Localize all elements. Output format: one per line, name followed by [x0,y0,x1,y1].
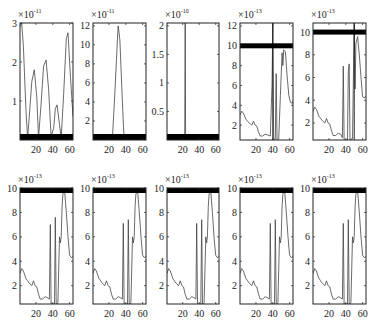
x-tick-label: 60 [211,308,221,319]
threshold-bar [93,134,146,140]
x-tick-label: 60 [65,144,75,155]
subplot-7: 204060246810×10-13 [80,173,148,319]
y-tick-label: 8 [12,207,17,218]
y-tick-label: 2 [232,120,237,131]
y-tick-label: 2 [159,20,164,31]
y-tick-label: 12 [80,20,90,31]
exponent-label: ×10-13 [311,173,335,185]
figure: 204060123×10-1120406024681012×10-1120406… [0,0,376,336]
axes-box [93,188,146,304]
data-line [93,190,146,304]
threshold-bar [93,188,146,193]
y-tick-label: 6 [85,77,90,88]
axes-box [240,23,293,140]
y-tick-label: 1 [159,77,164,88]
subplot-8: 204060246810×10-13 [154,173,221,319]
subplot-6: 204060246810×10-13 [7,173,75,319]
subplot-10: 204060246810×10-13 [300,173,368,319]
y-tick-label: 1 [12,96,17,107]
x-tick-label: 20 [104,144,114,155]
y-tick-label: 2 [305,117,310,128]
x-tick-label: 60 [211,144,221,155]
x-tick-label: 20 [178,308,188,319]
exponent-label: ×10-10 [165,8,189,20]
data-line [93,26,146,140]
exponent-label: ×10-13 [238,173,262,185]
exponent-label: ×10-13 [238,8,262,20]
y-tick-label: 10 [80,39,90,50]
y-tick-label: 2 [85,115,90,126]
axes-box [167,23,219,140]
y-tick-label: 4 [305,256,310,267]
x-tick-label: 40 [194,144,204,155]
y-tick-label: 2 [159,280,164,291]
data-line [167,190,219,304]
data-line [20,23,73,138]
y-tick-label: 8 [305,49,310,60]
x-tick-label: 60 [285,308,295,319]
y-tick-label: 6 [232,231,237,242]
threshold-bar [313,188,366,193]
y-tick-label: 4 [159,256,164,267]
threshold-bar [240,43,293,48]
x-tick-label: 40 [341,144,351,155]
x-tick-label: 40 [121,144,131,155]
y-tick-label: 10 [227,40,237,51]
data-line [240,190,293,304]
subplot-4: 20406024681012×10-13 [227,8,295,155]
y-tick-label: 12 [227,20,237,31]
y-tick-label: 6 [159,231,164,242]
y-tick-label: 4 [305,95,310,106]
x-tick-label: 60 [358,308,368,319]
y-tick-label: 2 [12,280,17,291]
axes-box [167,188,219,304]
threshold-bar [20,134,73,140]
x-tick-label: 20 [31,308,41,319]
y-tick-label: 10 [7,183,17,194]
axes-box [93,23,146,140]
data-line [20,190,73,304]
axes-box [240,188,293,304]
subplot-2: 20406024681012×10-11 [80,8,148,155]
y-tick-label: 4 [85,96,90,107]
y-tick-label: 10 [227,183,237,194]
y-tick-label: 4 [12,256,17,267]
y-tick-label: 4 [232,100,237,111]
axes-box [313,188,366,304]
y-tick-label: 2 [305,280,310,291]
exponent-label: ×10-13 [91,173,115,185]
data-line [240,23,293,140]
y-tick-label: 0.5 [152,106,165,117]
threshold-bar [167,134,219,140]
y-tick-label: 6 [12,231,17,242]
y-tick-label: 8 [305,207,310,218]
y-tick-label: 6 [305,231,310,242]
x-tick-label: 40 [48,144,58,155]
x-tick-label: 20 [251,308,261,319]
x-tick-label: 20 [324,308,334,319]
y-tick-label: 6 [85,231,90,242]
axes-box [20,188,73,304]
exponent-label: ×10-11 [91,8,114,20]
x-tick-label: 40 [121,308,131,319]
y-tick-label: 10 [154,183,164,194]
x-tick-label: 40 [194,308,204,319]
y-tick-label: 8 [232,207,237,218]
exponent-label: ×10-11 [18,8,41,20]
y-tick-label: 10 [80,183,90,194]
x-tick-label: 20 [324,144,334,155]
y-tick-label: 10 [300,183,310,194]
x-tick-label: 20 [178,144,188,155]
y-tick-label: 6 [232,80,237,91]
x-tick-label: 40 [268,144,278,155]
x-tick-label: 60 [138,308,148,319]
exponent-label: ×10-13 [18,173,42,185]
subplot-5: 204060246810×10-13 [300,8,368,155]
subplot-1: 204060123×10-11 [12,8,75,155]
y-tick-label: 6 [305,72,310,83]
threshold-bar [240,188,293,193]
x-tick-label: 60 [358,144,368,155]
data-line [313,23,366,140]
x-tick-label: 20 [31,144,41,155]
axes-box [20,23,73,140]
